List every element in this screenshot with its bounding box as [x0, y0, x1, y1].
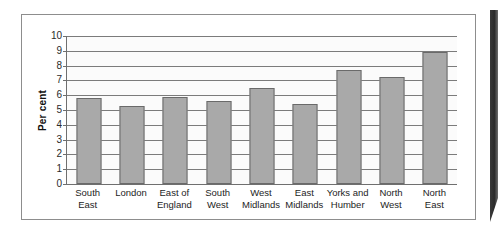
bar: [336, 70, 361, 184]
bar: [206, 101, 231, 184]
y-axis-tick-label: 9: [56, 46, 62, 56]
bar: [76, 98, 101, 184]
x-axis-category-label: SouthEast: [66, 187, 109, 210]
bar-slot: [414, 36, 457, 184]
bar-slot: [67, 36, 110, 184]
x-axis-category-label: WestMidlands: [239, 187, 282, 210]
y-axis-tick-label: 6: [56, 90, 62, 100]
x-axis-category-label-line1: South: [75, 187, 100, 198]
y-axis-tick-mark: [63, 184, 67, 185]
x-axis-category-label-line1: South: [205, 187, 230, 198]
bar-slot: [197, 36, 240, 184]
y-axis-tick-label: 0: [56, 179, 62, 189]
y-axis-tick-label: 1: [56, 164, 62, 174]
bar-slot: [370, 36, 413, 184]
x-axis-category-label: NorthEast: [413, 187, 456, 210]
x-axis-category-label: East ofEngland: [153, 187, 196, 210]
y-axis-tick-label: 8: [56, 61, 62, 71]
y-axis-tick-label: 4: [56, 120, 62, 130]
chart-figure: Per cent 012345678910 SouthEastLondonEas…: [0, 0, 498, 240]
x-axis-category-label-line2: West: [196, 199, 239, 211]
y-axis-tick-label: 2: [56, 149, 62, 159]
x-axis-category-label-line1: East of: [160, 187, 190, 198]
x-axis-category-label-line1: London: [115, 187, 147, 198]
bar: [163, 97, 188, 184]
x-axis-category-label: London: [109, 187, 152, 199]
bar-slot: [284, 36, 327, 184]
x-axis-category-label-line2: Midlands: [283, 199, 326, 211]
bar: [249, 88, 274, 184]
x-axis-category-label-line2: East: [413, 199, 456, 211]
x-axis-category-labels: SouthEastLondonEast ofEnglandSouthWestWe…: [66, 187, 456, 217]
page-edge-shadow: [490, 10, 498, 225]
x-axis-category-label-line2: East: [66, 199, 109, 211]
y-axis-tick-label: 5: [56, 105, 62, 115]
plot-area: 012345678910: [66, 36, 457, 185]
bar-slot: [240, 36, 283, 184]
x-axis-category-label-line1: North: [379, 187, 402, 198]
bar: [293, 104, 318, 184]
x-axis-category-label-line1: West: [250, 187, 271, 198]
x-axis-category-label-line2: Midlands: [239, 199, 282, 211]
y-axis-title-label: Per cent: [38, 89, 49, 130]
bar-slot: [154, 36, 197, 184]
x-axis-category-label-line1: East: [295, 187, 314, 198]
bar: [379, 77, 404, 184]
bar: [423, 52, 448, 184]
x-axis-category-label: Yorks andHumber: [326, 187, 369, 210]
y-axis-title: Per cent: [36, 36, 50, 184]
y-axis-tick-label: 10: [51, 31, 62, 41]
x-axis-category-label-line2: Humber: [326, 199, 369, 211]
bar-slot: [327, 36, 370, 184]
x-axis-category-label-line2: England: [153, 199, 196, 211]
x-axis-category-label: NorthWest: [369, 187, 412, 210]
y-axis-tick-label: 3: [56, 135, 62, 145]
x-axis-category-label-line1: Yorks and: [327, 187, 369, 198]
bar: [119, 106, 144, 184]
x-axis-category-label: EastMidlands: [283, 187, 326, 210]
x-axis-category-label-line2: West: [369, 199, 412, 211]
x-axis-category-label-line1: North: [423, 187, 446, 198]
bar-series: [67, 36, 457, 184]
bar-slot: [110, 36, 153, 184]
x-axis-category-label: SouthWest: [196, 187, 239, 210]
y-axis-tick-label: 7: [56, 75, 62, 85]
